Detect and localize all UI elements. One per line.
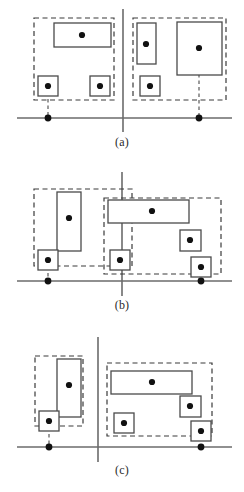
point-b-6: [198, 264, 204, 270]
axis-point-b-2: [198, 278, 205, 285]
point-b-4: [117, 257, 123, 263]
axis-point-c-1: [46, 444, 53, 451]
point-a-1: [79, 32, 85, 38]
panel-a-label: (a): [0, 135, 244, 150]
point-c-1: [66, 382, 72, 388]
axis-point-c-2: [198, 444, 205, 451]
point-b-1: [66, 215, 72, 221]
axis-point-a-2: [196, 115, 203, 122]
rect-b-3: [108, 200, 189, 223]
axis-point-a-1: [45, 115, 52, 122]
figure-root: (a) (b) (c): [0, 0, 244, 492]
point-a-5: [147, 83, 153, 89]
point-a-3: [97, 83, 103, 89]
point-c-5: [187, 403, 193, 409]
rect-b-1: [57, 192, 81, 251]
point-b-2: [45, 257, 51, 263]
point-c-4: [121, 420, 127, 426]
panel-c-label: (c): [0, 463, 244, 478]
point-c-6: [198, 428, 204, 434]
panel-b-label: (b): [0, 298, 244, 313]
point-b-3: [149, 208, 155, 214]
point-a-4: [143, 41, 149, 47]
point-c-3: [149, 379, 155, 385]
axis-point-b-1: [45, 278, 52, 285]
point-b-5: [187, 237, 193, 243]
point-c-2: [46, 418, 52, 424]
point-a-2: [45, 83, 51, 89]
point-a-6: [196, 45, 202, 51]
